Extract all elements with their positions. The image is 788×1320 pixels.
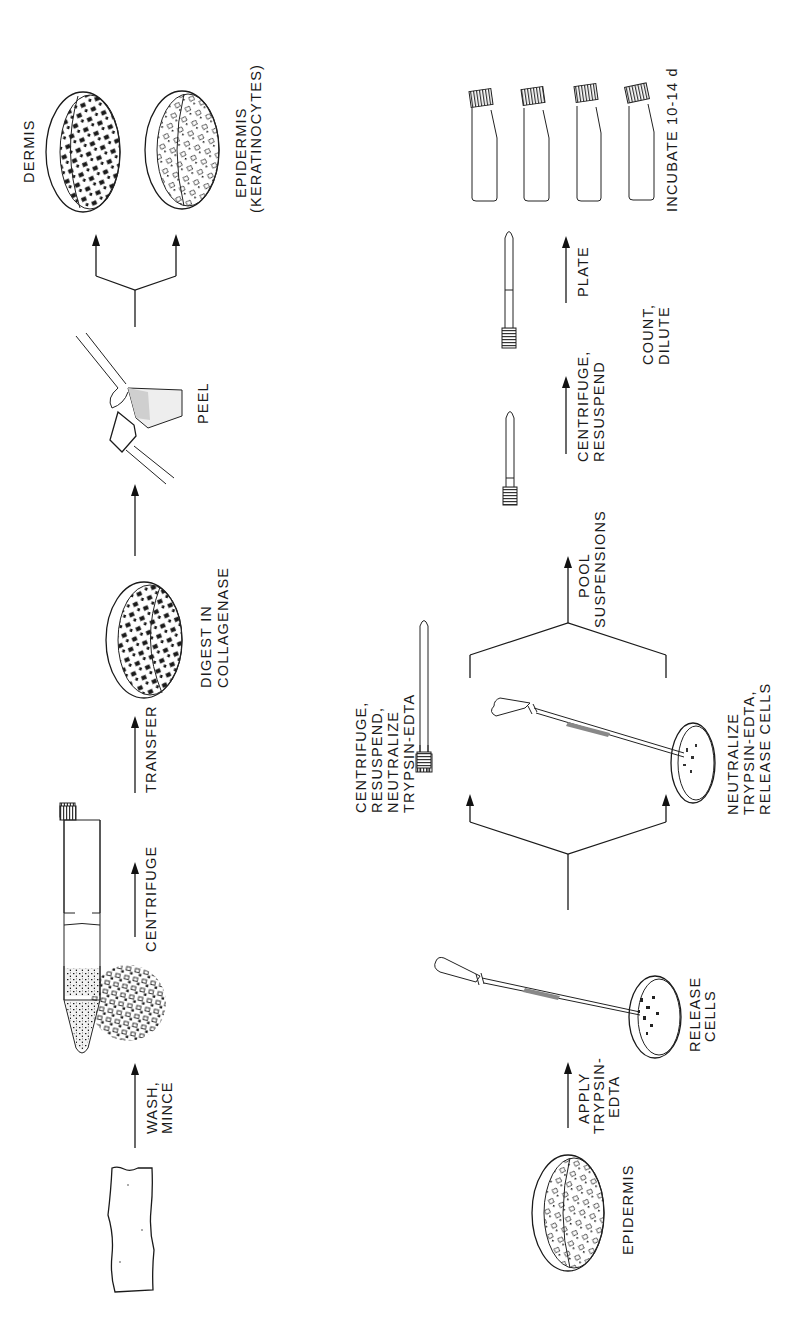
petri-dish-digest-icon [106, 582, 182, 698]
arrow-to-peel [131, 484, 139, 556]
petri-dish-dermis-icon [46, 92, 120, 212]
label-wash: WASH, [144, 1081, 160, 1134]
flask-1 [469, 89, 497, 201]
label-branch-a-3: NEUTRALIZE [385, 711, 401, 813]
label-branch-a-2: RESUSPEND, [369, 707, 385, 813]
label-resuspend: RESUSPEND [591, 361, 607, 462]
label-mince: MINCE [159, 1081, 175, 1134]
label-dermis: DERMIS [21, 119, 37, 183]
label-peel: PEEL [195, 382, 211, 424]
label-centrifuge-2: CENTRIFUGE, [575, 351, 591, 462]
centrifuge-tube-branch-a [417, 621, 431, 769]
label-incubate: INCUBATE 10-14 d [664, 67, 680, 212]
label-suspensions: SUSPENSIONS [592, 510, 608, 628]
arrow-wash-mince [131, 1063, 139, 1148]
label-count: COUNT, [640, 304, 656, 365]
label-branch-b-2: TRYPSIN-EDTA, [741, 690, 757, 815]
centrifuge-tube-pellet-icon [60, 803, 100, 1053]
label-edta: EDTA [606, 1076, 622, 1118]
pipette-dish-branch-b-icon [491, 698, 715, 803]
arrow-apply-trypsin [564, 1062, 572, 1128]
label-branch-b-1: NEUTRALIZE [725, 713, 741, 815]
fork-arrows-merge [470, 556, 666, 678]
pipette-dish-release-icon [435, 957, 681, 1058]
label-pool: POOL [576, 553, 592, 598]
label-centrifuge: CENTRIFUGE [143, 846, 159, 952]
petri-dish-epidermis-icon [145, 91, 219, 209]
fork-arrows-top [92, 234, 180, 327]
centrifuge-tube-count-icon [502, 232, 516, 349]
centrifuge-tube-pooled-icon [503, 412, 517, 506]
label-transfer: TRANSFER [143, 705, 159, 793]
label-apply: APPLY [576, 1072, 592, 1124]
skin-sample-icon [108, 1167, 154, 1292]
label-epidermis-bottom: EPIDERMIS [620, 1164, 636, 1255]
label-plate: PLATE [575, 246, 591, 297]
label-dilute: DILUTE [656, 306, 672, 365]
label-trypsin: TRYPSIN- [591, 1057, 607, 1134]
minced-tissue-icon [90, 965, 166, 1041]
culture-flasks-icon [469, 83, 654, 201]
label-branch-b-3: RELEASE CELLS [757, 683, 773, 815]
flask-3 [574, 84, 601, 201]
forceps-peel-icon [76, 333, 182, 484]
label-branch-a-4: TRYPSIN-EDTA [401, 694, 417, 813]
keratinocyte-workflow-diagram: WASH, MINCE CENTRIFUGE TRANSFER DIGEST I… [0, 0, 788, 1320]
label-branch-a-1: CENTRIFUGE, [353, 702, 369, 813]
label-digest-in: DIGEST IN [198, 605, 214, 688]
arrow-centrifuge [131, 862, 139, 937]
petri-dish-epidermis-bottom-icon [532, 1155, 604, 1271]
fork-arrows-split [466, 794, 670, 910]
label-release: RELEASE [687, 977, 703, 1052]
flask-2 [521, 87, 549, 201]
flask-4 [625, 83, 654, 200]
arrow-transfer [131, 716, 139, 793]
label-cells: CELLS [702, 990, 718, 1042]
arrow-centrifuge-resuspend [562, 376, 570, 454]
arrow-plate [562, 236, 570, 303]
label-epidermis: EPIDERMIS [233, 107, 249, 198]
label-keratinocytes: (KERATINOCYTES) [248, 64, 264, 213]
label-collagenase: COLLAGENASE [215, 567, 231, 688]
